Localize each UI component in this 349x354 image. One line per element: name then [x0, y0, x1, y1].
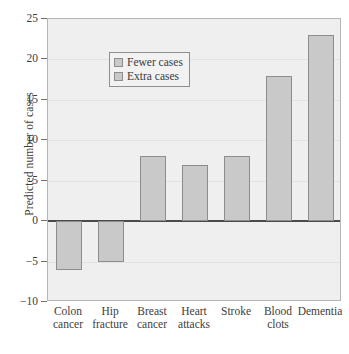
x-axis-tick-label: Breastcancer [137, 305, 167, 330]
legend-item: Extra cases [114, 69, 183, 83]
x-axis-tick-label: Coloncancer [53, 305, 83, 330]
legend-swatch-icon [114, 72, 123, 81]
y-axis-tick-label: 15 [0, 93, 38, 105]
x-axis-tick-label: Stroke [221, 305, 251, 318]
bar [98, 221, 124, 261]
x-axis-tick-label: Dementia [298, 305, 343, 318]
x-axis-tick-label: Bloodclots [264, 305, 292, 330]
y-axis-tick-label: 25 [0, 12, 38, 24]
x-axis-tick-label: Heartattacks [178, 305, 210, 330]
x-axis-tick-label: Hipfracture [92, 305, 128, 330]
bar [266, 76, 292, 222]
bar [56, 221, 82, 270]
bar [308, 35, 334, 221]
gridline [48, 140, 340, 141]
y-axis-tick-label: 0 [0, 214, 38, 226]
legend: Fewer casesExtra cases [109, 52, 190, 87]
y-axis-tick-label: 5 [0, 174, 38, 186]
bar [182, 165, 208, 222]
y-axis-tick-label: 10 [0, 133, 38, 145]
y-axis-tick-label: −5 [0, 255, 38, 267]
gridline [48, 59, 340, 60]
legend-label: Extra cases [127, 69, 179, 83]
y-axis-tick [41, 301, 47, 302]
legend-label: Fewer cases [127, 55, 183, 69]
y-axis-tick-label: −10 [0, 295, 38, 307]
y-axis-tick-label: 20 [0, 52, 38, 64]
legend-item: Fewer cases [114, 55, 183, 69]
plot-area: Fewer casesExtra cases [47, 18, 341, 301]
bar [224, 156, 250, 221]
bar [140, 156, 166, 221]
gridline [48, 262, 340, 263]
legend-swatch-icon [114, 58, 123, 67]
bar-chart-figure: Predicted number of cases 2520151050−5−1… [0, 0, 349, 354]
gridline [48, 100, 340, 101]
